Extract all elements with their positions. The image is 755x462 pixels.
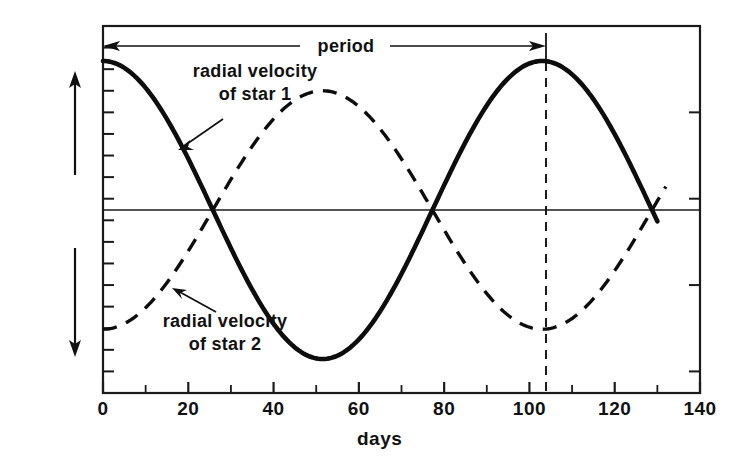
x-tick-label: 20	[164, 398, 212, 420]
chart-svg	[0, 0, 755, 462]
star2-callout-line2: of star 2	[130, 333, 320, 356]
star1-callout-line1: radial velocity	[160, 60, 350, 83]
star2-callout-line1: radial velocity	[130, 310, 320, 333]
star1-callout-arrow	[178, 119, 223, 150]
x-tick-label: 0	[79, 398, 127, 420]
x-axis-title: days	[357, 428, 402, 450]
x-tick-label: 40	[250, 398, 298, 420]
up-arrow-icon	[69, 71, 81, 175]
radial-velocity-chart: 020406080100120140 days increasing speed…	[0, 0, 755, 462]
star2-callout-label: radial velocity of star 2	[130, 310, 320, 356]
period-label: period	[303, 35, 389, 58]
x-axis-ticks	[103, 382, 700, 393]
star2-callout-arrow	[172, 288, 216, 312]
down-arrow-icon	[69, 248, 81, 357]
star1-callout-label: radial velocity of star 1	[160, 60, 350, 106]
y-axis-ticks-right	[689, 112, 700, 371]
star1-callout-line2: of star 1	[160, 83, 350, 106]
x-tick-label: 60	[335, 398, 383, 420]
x-tick-label: 100	[505, 398, 553, 420]
x-tick-label: 80	[420, 398, 468, 420]
x-tick-label: 140	[676, 398, 724, 420]
x-tick-label: 120	[591, 398, 639, 420]
